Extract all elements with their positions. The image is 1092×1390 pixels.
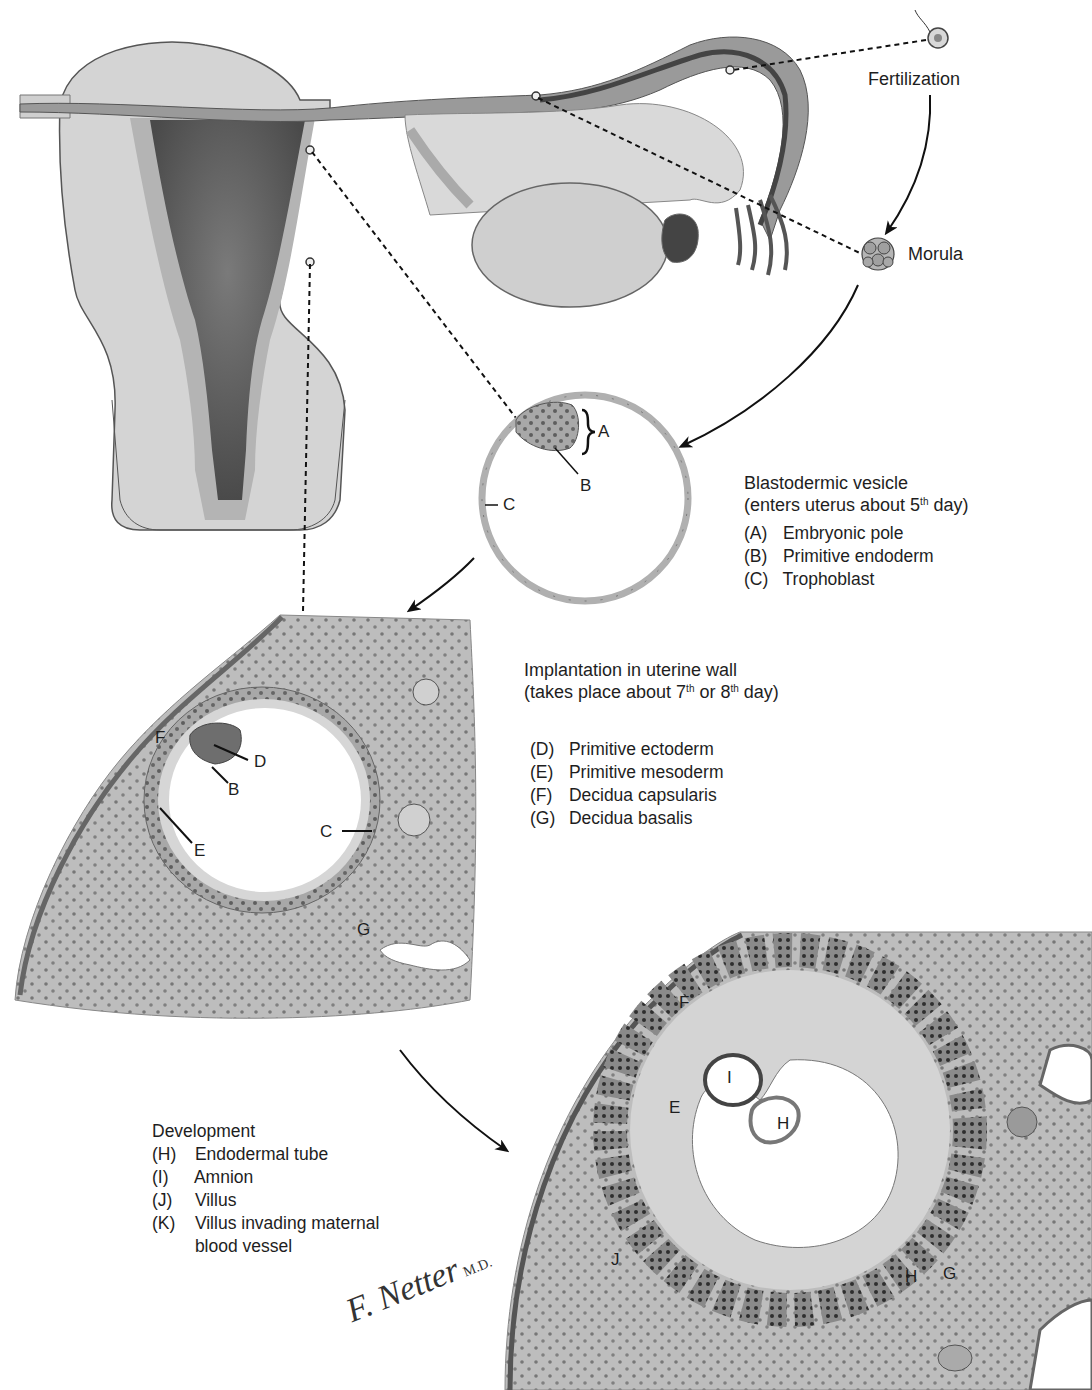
legend-item-c: (C) Trophoblast: [744, 568, 968, 591]
arrow-morula-to-blastocyst: [682, 285, 858, 446]
legend-item-f: (F) Decidua capsularis: [530, 784, 724, 807]
development-title: Development: [152, 1120, 379, 1143]
blastocyst-caption: Blastodermic vesicle (enters uterus abou…: [744, 472, 968, 591]
development-caption: Development (H) Endodermal tube (I) Amni…: [152, 1120, 379, 1258]
blastocyst-subtitle: (enters uterus about 5th day): [744, 494, 968, 516]
implantation-title: Implantation in uterine wall: [524, 659, 779, 681]
blastocyst-label-c: C: [503, 495, 515, 515]
legend-item-k-cont: blood vessel: [152, 1235, 379, 1258]
implantation-illustration: [15, 615, 476, 1018]
implantation-label-c: C: [320, 822, 332, 842]
uterus-illustration: [20, 37, 808, 530]
implantation-label-f: F: [155, 728, 165, 748]
implantation-caption: Implantation in uterine wall (takes plac…: [524, 659, 779, 703]
arrow-implantation-to-development: [400, 1050, 506, 1150]
legend-item-j: (J) Villus: [152, 1189, 379, 1212]
morula-label: Morula: [908, 243, 963, 265]
development-label-h-vessel: H: [905, 1267, 917, 1287]
development-label-g: G: [943, 1264, 956, 1284]
development-label-j: J: [611, 1250, 620, 1270]
legend-item-d: (D) Primitive ectoderm: [530, 738, 724, 761]
development-label-h: H: [777, 1114, 789, 1134]
implantation-subtitle: (takes place about 7th or 8th day): [524, 681, 779, 703]
implantation-label-d: D: [254, 752, 266, 772]
legend-item-k: (K) Villus invading maternal: [152, 1212, 379, 1235]
implantation-label-e: E: [194, 841, 205, 861]
arrow-blastocyst-to-implantation: [410, 558, 474, 610]
blastocyst-label-a: A: [598, 422, 609, 442]
implantation-label-b: B: [228, 780, 239, 800]
development-illustration: [505, 932, 1092, 1390]
implantation-legend: (D) Primitive ectoderm (E) Primitive mes…: [530, 738, 724, 830]
implantation-label-g: G: [357, 920, 370, 940]
legend-item-b: (B) Primitive endoderm: [744, 545, 968, 568]
blastocyst-title: Blastodermic vesicle: [744, 472, 968, 494]
ovum-marker: [726, 66, 734, 74]
blastocyst-label-b: B: [580, 476, 591, 496]
legend-item-i: (I) Amnion: [152, 1166, 379, 1189]
sperm-ovum-icon: [915, 10, 948, 48]
development-label-i: I: [727, 1068, 732, 1088]
development-label-f: F: [679, 993, 689, 1013]
legend-item-h: (H) Endodermal tube: [152, 1143, 379, 1166]
legend-item-a: (A) Embryonic pole: [744, 522, 968, 545]
arrow-fertilization-to-morula: [887, 95, 930, 232]
morula-icon: [862, 238, 894, 270]
development-label-e: E: [669, 1098, 680, 1118]
legend-item-e: (E) Primitive mesoderm: [530, 761, 724, 784]
legend-item-g: (G) Decidua basalis: [530, 807, 724, 830]
fertilization-label: Fertilization: [868, 68, 960, 90]
